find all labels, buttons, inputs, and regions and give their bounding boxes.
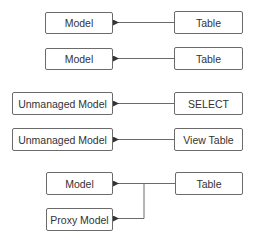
box-label: Model [65,178,94,190]
unmanaged-model-box-1: Unmanaged Model [12,92,113,115]
box-label: SELECT [188,98,229,110]
unmanaged-model-box-2: Unmanaged Model [12,128,113,151]
table-box-2: Table [174,47,243,70]
table-box-1: Table [174,11,243,34]
box-label: View Table [183,134,233,146]
model-box-1: Model [45,12,113,34]
box-label: Table [196,178,221,190]
box-label: Model [65,53,94,65]
box-label: Unmanaged Model [18,134,107,146]
proxy-model-box: Proxy Model [46,208,113,231]
box-label: Table [196,17,221,29]
table-box-3: Table [175,172,243,195]
connector-lines [0,0,255,241]
box-label: Unmanaged Model [18,98,107,110]
box-label: Table [196,53,221,65]
box-label: Model [65,17,94,29]
box-label: Proxy Model [50,214,108,226]
model-box-2: Model [45,48,113,70]
model-box-3: Model [46,172,113,195]
select-box: SELECT [174,92,243,115]
view-table-box: View Table [174,128,243,151]
